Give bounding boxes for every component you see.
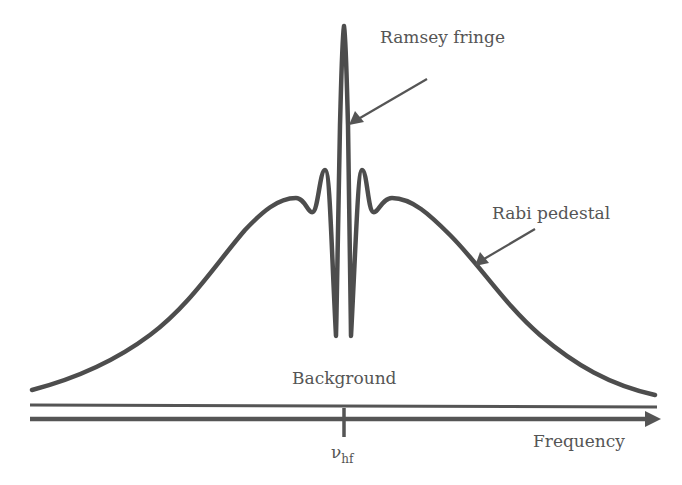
- ramsey-fringe-label: Ramsey fringe: [380, 27, 505, 47]
- ramsey-arrow-shaft: [360, 79, 427, 118]
- ramsey-spectrum-diagram: Ramsey fringe Rabi pedestal Background F…: [0, 0, 682, 485]
- hf-subscript: hf: [341, 452, 353, 466]
- background-line: [30, 405, 657, 407]
- diagram-canvas: [0, 0, 682, 485]
- background-label: Background: [292, 368, 396, 388]
- rabi-arrow-shaft: [484, 229, 535, 259]
- center-frequency-label: νhf: [331, 442, 354, 462]
- rabi-pedestal-label: Rabi pedestal: [492, 203, 610, 223]
- axis-arrowhead-icon: [645, 411, 661, 427]
- rabi-arrowhead-icon: [475, 252, 489, 266]
- frequency-label: Frequency: [533, 431, 625, 451]
- nu-symbol: ν: [331, 442, 341, 462]
